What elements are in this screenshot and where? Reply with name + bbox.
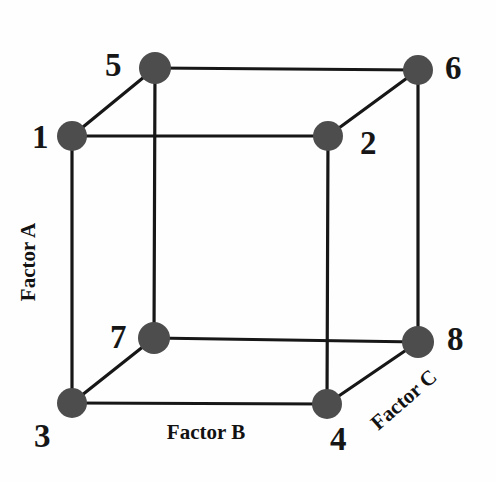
vertex-label-1: 1 xyxy=(32,121,48,154)
cube-vertex-6 xyxy=(403,55,433,85)
cube-vertex-2 xyxy=(313,121,343,151)
cube-vertex-5 xyxy=(139,52,171,84)
vertex-label-3: 3 xyxy=(34,420,50,453)
edge-7-8 xyxy=(154,338,418,342)
vertex-label-4: 4 xyxy=(330,423,346,456)
vertex-label-5: 5 xyxy=(105,49,121,82)
cube-vertex-4 xyxy=(312,389,342,419)
cube-vertex-8 xyxy=(402,326,434,358)
factorial-cube-figure: 12345678 Factor A Factor B Factor C xyxy=(0,0,496,482)
cube-vertex-3 xyxy=(57,388,87,418)
cube-graphic xyxy=(0,0,496,482)
vertex-label-8: 8 xyxy=(447,323,463,356)
vertex-label-7: 7 xyxy=(110,321,126,354)
axis-label-factor-b: Factor B xyxy=(167,422,245,443)
axis-label-factor-a: Factor A xyxy=(18,223,39,301)
cube-vertex-1 xyxy=(57,121,87,151)
edge-2-4 xyxy=(327,136,328,404)
cube-vertex-7 xyxy=(138,322,170,354)
edge-5-6 xyxy=(155,68,418,70)
edge-5-7 xyxy=(154,68,155,338)
vertex-label-6: 6 xyxy=(445,52,461,85)
node-group xyxy=(57,52,434,419)
vertex-label-2: 2 xyxy=(360,127,376,160)
edge-3-4 xyxy=(72,403,327,404)
